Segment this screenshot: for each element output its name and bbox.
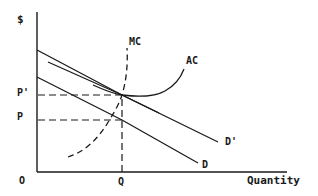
curve-label-d-prime: D' <box>225 137 237 147</box>
y-tick-label-p-prime: P' <box>17 88 29 98</box>
curve-marginal-revenue-prime <box>48 62 159 113</box>
x-tick-label-q: Q <box>118 177 124 187</box>
plot-canvas <box>0 0 318 196</box>
curve-label-mc: MC <box>129 37 141 47</box>
economics-diagram: $ O P' P Q MC AC D' D Quantity <box>0 0 318 196</box>
curve-label-ac: AC <box>186 56 198 66</box>
y-axis-label: $ <box>17 14 24 25</box>
curve-average-cost <box>93 69 184 96</box>
curve-marginal-cost <box>68 48 127 157</box>
y-tick-label-p: P <box>17 112 23 122</box>
origin-label: O <box>19 176 25 186</box>
x-axis-label: Quantity <box>247 175 300 186</box>
curve-label-d: D <box>202 160 208 170</box>
